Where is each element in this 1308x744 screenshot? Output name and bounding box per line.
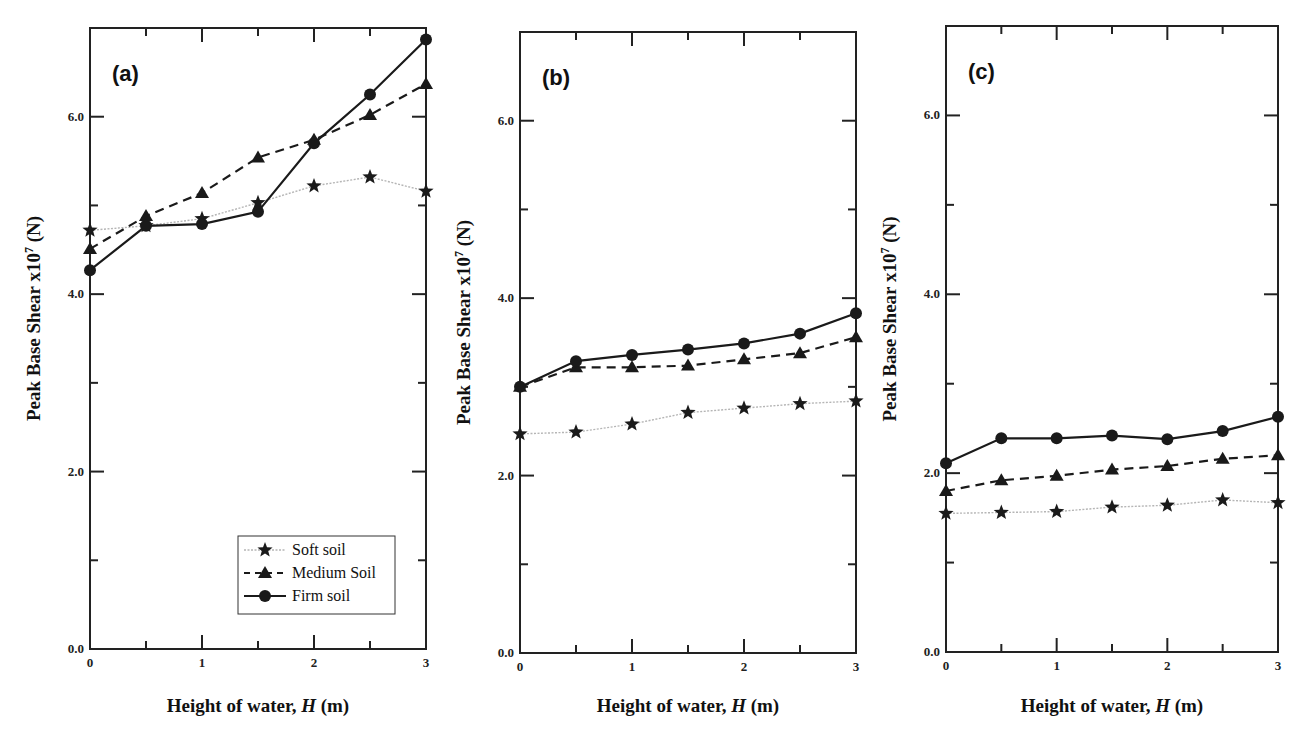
circle-marker: [995, 432, 1007, 444]
circle-marker: [1051, 432, 1063, 444]
circle-marker: [1106, 430, 1118, 442]
panel-label: (c): [968, 59, 995, 84]
y-axis-title: Peak Base Shear x107 (N): [878, 216, 901, 421]
star-marker: [1049, 504, 1064, 518]
circle-marker: [1272, 411, 1284, 423]
y-tick-label: 6.0: [924, 107, 940, 122]
star-marker: [1104, 499, 1119, 513]
triangle-marker: [1271, 448, 1285, 460]
y-tick-label: 2.0: [924, 465, 940, 480]
circle-marker: [1217, 425, 1229, 437]
plot-frame: [946, 26, 1278, 652]
panel-c: 01230.02.04.06.0Height of water, H (m)Pe…: [0, 0, 1308, 744]
y-tick-label: 0.0: [924, 644, 940, 659]
x-tick-label: 3: [1275, 658, 1282, 673]
circle-marker: [940, 457, 952, 469]
x-tick-label: 0: [943, 658, 950, 673]
figure: 01230.02.04.06.0Height of water, H (m)Pe…: [0, 0, 1308, 744]
star-marker: [1215, 492, 1230, 506]
triangle-marker: [1050, 469, 1064, 481]
x-tick-label: 2: [1164, 658, 1171, 673]
star-marker: [1160, 497, 1175, 511]
x-axis-title: Height of water, H (m): [1021, 695, 1203, 717]
x-tick-label: 1: [1053, 658, 1060, 673]
y-tick-label: 4.0: [924, 286, 940, 301]
triangle-marker: [1216, 452, 1230, 464]
circle-marker: [1161, 433, 1173, 445]
star-marker: [994, 504, 1009, 518]
